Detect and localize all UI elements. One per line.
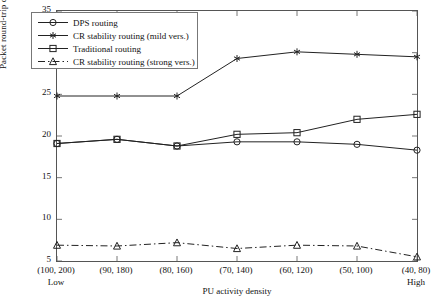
legend-label: CR stability routing (mild vers.) xyxy=(70,31,189,41)
chart-legend: DPS routingCR stability routing (mild ve… xyxy=(31,12,198,69)
triangle-marker xyxy=(36,55,70,68)
legend-item: CR stability routing (strong vers.) xyxy=(36,55,193,68)
square-marker xyxy=(36,42,70,55)
x-tick-label: (60, 120) xyxy=(264,265,328,275)
legend-label: Traditional routing xyxy=(70,44,141,54)
x-axis-title: PU activity density xyxy=(167,286,307,296)
series-line xyxy=(57,114,417,146)
x-tick-label: (70, 140) xyxy=(204,265,268,275)
legend-item: Traditional routing xyxy=(36,42,193,55)
y-tick-label: 25 xyxy=(29,87,51,97)
asterisk-marker xyxy=(36,29,70,42)
y-tick-label: 15 xyxy=(29,171,51,181)
legend-label: DPS routing xyxy=(70,18,118,28)
x-tick-label: (50, 100) xyxy=(324,265,388,275)
x-axis-high-label: High xyxy=(384,277,435,287)
y-axis-title: Packet round-trip delay (ms) xyxy=(0,0,8,96)
circle-marker xyxy=(36,16,70,29)
legend-item: CR stability routing (mild vers.) xyxy=(36,29,193,42)
y-tick-label: 10 xyxy=(29,212,51,222)
x-tick-label: (40, 80) xyxy=(384,265,435,275)
legend-item: DPS routing xyxy=(36,16,193,29)
series-markers xyxy=(54,111,420,149)
x-tick-label: (90, 180) xyxy=(84,265,148,275)
x-axis-low-label: Low xyxy=(24,277,88,287)
y-tick-label: 20 xyxy=(29,129,51,139)
legend-label: CR stability routing (strong vers.) xyxy=(70,57,195,67)
y-tick-label: 5 xyxy=(29,254,51,264)
x-tick-label: (100, 200) xyxy=(24,265,88,275)
x-tick-label: (80, 160) xyxy=(144,265,208,275)
